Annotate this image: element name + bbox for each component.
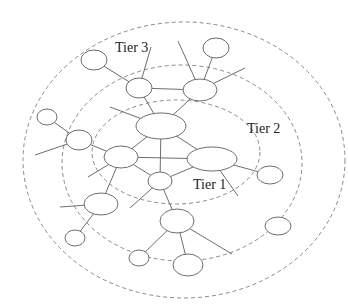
network-node-n3 <box>187 147 237 171</box>
network-node-n10 <box>37 109 57 125</box>
network-node-n11 <box>84 193 118 215</box>
network-nodes <box>37 38 291 276</box>
network-node-n6 <box>183 79 217 101</box>
network-node-n5 <box>126 78 152 98</box>
network-node-n8 <box>203 38 229 58</box>
tier-1-label: Tier 1 <box>193 177 226 192</box>
network-node-n12 <box>65 230 85 246</box>
network-node-n17 <box>265 217 291 235</box>
network-node-n7 <box>81 50 107 70</box>
network-node-n4 <box>148 172 172 190</box>
network-node-n13 <box>160 209 194 233</box>
network-node-n15 <box>173 254 203 276</box>
network-node-n16 <box>257 166 283 184</box>
tier-2-label: Tier 2 <box>247 121 280 136</box>
network-node-n2 <box>104 146 138 168</box>
tiered-network-diagram: Tier 1 Tier 2 Tier 3 <box>0 0 348 307</box>
network-node-n9 <box>66 130 92 150</box>
network-node-n1 <box>136 113 186 139</box>
tier-3-label: Tier 3 <box>115 40 148 55</box>
network-node-n14 <box>129 250 149 266</box>
